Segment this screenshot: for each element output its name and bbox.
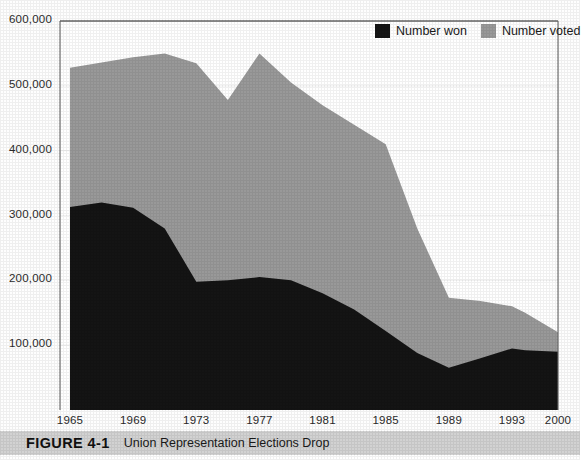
- legend-swatch-gray: [481, 24, 496, 38]
- chart-area: 100,000200,000300,000400,000500,000600,0…: [0, 0, 580, 430]
- x-tick-1993: 1993: [490, 414, 534, 426]
- y-tick-100000: 100,000: [0, 337, 52, 349]
- y-tick-600000: 600,000: [0, 13, 52, 25]
- x-tick-1973: 1973: [174, 414, 218, 426]
- x-tick-1981: 1981: [301, 414, 345, 426]
- figure-caption-bar: FIGURE 4-1 Union Representation Election…: [0, 431, 580, 455]
- x-tick-1989: 1989: [427, 414, 471, 426]
- y-tick-400000: 400,000: [0, 143, 52, 155]
- y-tick-300000: 300,000: [0, 208, 52, 220]
- legend-label: Number voted: [502, 24, 581, 38]
- y-tick-500000: 500,000: [0, 78, 52, 90]
- x-tick-1985: 1985: [364, 414, 408, 426]
- legend-entry-number-voted: Number voted: [481, 24, 581, 38]
- x-tick-1965: 1965: [48, 414, 92, 426]
- x-tick-1977: 1977: [237, 414, 281, 426]
- legend-label: Number won: [396, 24, 467, 38]
- y-tick-200000: 200,000: [0, 272, 52, 284]
- area-chart-svg: [0, 0, 580, 430]
- x-tick-2000: 2000: [536, 414, 580, 426]
- page-edge: [0, 455, 580, 460]
- figure-number: FIGURE 4-1: [26, 435, 110, 451]
- chart-legend: Number wonNumber voted: [371, 22, 584, 40]
- legend-entry-number-won: Number won: [375, 24, 467, 38]
- x-tick-1969: 1969: [111, 414, 155, 426]
- legend-swatch-black: [375, 24, 390, 38]
- figure-title: Union Representation Elections Drop: [124, 436, 330, 450]
